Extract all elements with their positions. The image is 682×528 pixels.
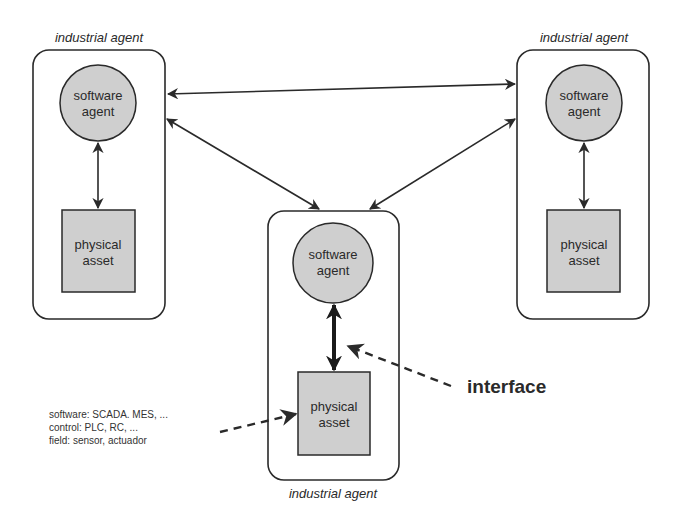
interface-label: interface <box>467 376 546 397</box>
link-right-center <box>370 119 515 209</box>
physical-asset-line2: asset <box>82 253 113 268</box>
industrial-agent-right: industrial agent software agent physical… <box>517 30 649 319</box>
note-line-software: software: SCADA. MES, ... <box>49 409 168 420</box>
physical-asset-line2: asset <box>318 415 349 430</box>
physical-asset-line1: physical <box>75 237 122 252</box>
industrial-agents-diagram: industrial agent software agent physical… <box>0 0 682 528</box>
note-line-field: field: sensor, actuador <box>49 435 148 446</box>
software-agent-node <box>60 65 136 141</box>
software-agent-line2: agent <box>82 104 115 119</box>
software-agent-line2: agent <box>317 263 350 278</box>
link-left-center <box>167 119 319 209</box>
physical-asset-line2: asset <box>568 253 599 268</box>
software-agent-line1: software <box>308 247 357 262</box>
layers-note: software: SCADA. MES, ... control: PLC, … <box>49 409 168 446</box>
industrial-agent-center: software agent physical asset industrial… <box>268 211 399 501</box>
software-agent-line1: software <box>559 88 608 103</box>
link-left-right <box>168 84 515 94</box>
agent-label: industrial agent <box>540 30 630 45</box>
note-line-control: control: PLC, RC, ... <box>49 422 138 433</box>
software-agent-line2: agent <box>568 104 601 119</box>
industrial-agent-left: industrial agent software agent physical… <box>33 30 165 319</box>
agent-label: industrial agent <box>55 30 145 45</box>
physical-asset-line1: physical <box>561 237 608 252</box>
agent-label: industrial agent <box>289 486 379 501</box>
software-agent-line1: software <box>73 88 122 103</box>
software-agent-node <box>546 65 622 141</box>
physical-asset-line1: physical <box>311 399 358 414</box>
